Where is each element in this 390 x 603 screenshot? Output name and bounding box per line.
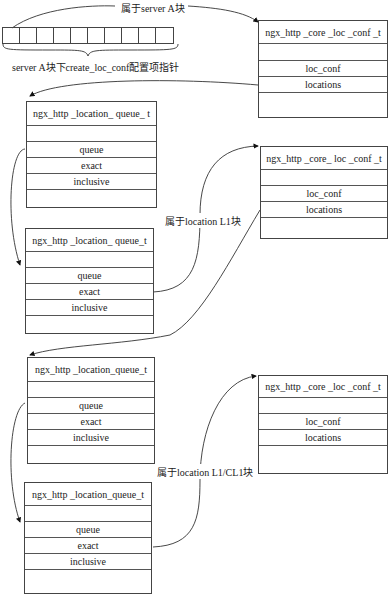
struct-row-locations: locations <box>259 77 387 93</box>
struct-title: ngx_http _core _loc _conf _t <box>259 21 387 44</box>
struct-title: ngx_http _location_queue_t <box>28 358 154 382</box>
struct-row <box>259 446 387 473</box>
struct-row <box>27 190 156 207</box>
struct-row <box>28 446 154 463</box>
struct-row-queue: queue <box>28 398 154 414</box>
struct-row-inclusive: inclusive <box>27 174 156 190</box>
struct-title: ngx_http _location_ queue_ t <box>27 102 156 126</box>
array-cell <box>105 28 122 43</box>
label-array-caption: server A块下create_loc_conf配置项指针 <box>12 59 179 74</box>
struct-row <box>27 126 156 142</box>
struct-row-inclusive: inclusive <box>25 554 151 570</box>
struct-row-loc-conf: loc_conf <box>261 186 387 202</box>
struct-title: ngx_http _core _loc _conf _t <box>259 376 387 398</box>
struct-row <box>261 170 387 186</box>
struct-row <box>25 570 151 593</box>
location-queue-box-1: ngx_http _location_ queue_ t queue exact… <box>26 101 157 208</box>
struct-row <box>28 382 154 398</box>
struct-row <box>259 44 387 61</box>
struct-row-exact: exact <box>28 414 154 430</box>
struct-row <box>25 506 151 522</box>
array-cell <box>54 28 71 43</box>
struct-row-locations: locations <box>259 430 387 446</box>
struct-row-queue: queue <box>26 268 153 284</box>
struct-row-loc-conf: loc_conf <box>259 61 387 77</box>
label-belongs-server-a: 属于server A块 <box>121 0 185 15</box>
core-loc-conf-box-1: ngx_http _core _loc _conf _t loc_conf lo… <box>258 20 388 118</box>
array-cell <box>37 28 54 43</box>
struct-row-inclusive: inclusive <box>26 300 153 316</box>
struct-row <box>26 316 153 334</box>
struct-row <box>259 93 387 118</box>
location-queue-box-4: ngx_http _location_queue_t queue exact i… <box>24 482 152 594</box>
struct-title: ngx_http _location_queue_t <box>25 483 151 506</box>
location-queue-box-3: ngx_http _location_queue_t queue exact i… <box>27 357 155 464</box>
struct-row <box>26 252 153 268</box>
array-cell <box>3 28 20 43</box>
struct-row-loc-conf: loc_conf <box>259 414 387 430</box>
array-cell <box>71 28 88 43</box>
label-belongs-l1: 属于location L1块 <box>165 213 241 228</box>
struct-row-inclusive: inclusive <box>28 430 154 446</box>
struct-row <box>261 218 387 240</box>
array-cell <box>156 28 173 43</box>
core-loc-conf-box-2: ngx_http _core_ loc _conf _t loc_conf lo… <box>260 146 388 239</box>
array-cell <box>20 28 37 43</box>
loc-conf-pointer-array <box>2 27 174 44</box>
struct-row <box>259 398 387 414</box>
struct-row-locations: locations <box>261 202 387 218</box>
struct-row-queue: queue <box>27 142 156 158</box>
struct-row-exact: exact <box>25 538 151 554</box>
struct-title: ngx_http _location_ queue_t <box>26 229 153 252</box>
core-loc-conf-box-3: ngx_http _core _loc _conf _t loc_conf lo… <box>258 375 388 474</box>
location-queue-box-2: ngx_http _location_ queue_t queue exact … <box>25 228 154 334</box>
array-cell <box>88 28 105 43</box>
label-belongs-l1-cl1: 属于location L1/CL1块 <box>157 464 253 479</box>
struct-row-exact: exact <box>27 158 156 174</box>
array-cell <box>122 28 139 43</box>
struct-row-queue: queue <box>25 522 151 538</box>
array-cell <box>139 28 156 43</box>
struct-title: ngx_http _core_ loc _conf _t <box>261 147 387 170</box>
struct-row-exact: exact <box>26 284 153 300</box>
